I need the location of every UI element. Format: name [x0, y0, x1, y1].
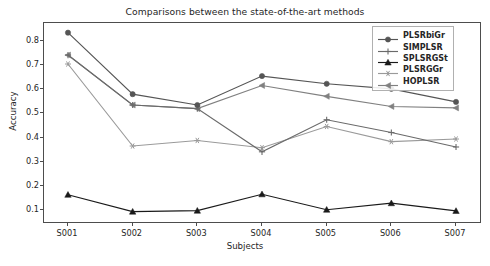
- legend-marker-icon: [377, 64, 399, 75]
- legend-label: PLSRGGr: [403, 65, 443, 74]
- x-axis-label: Subjects: [0, 241, 490, 251]
- y-tick-label: 0.4: [11, 132, 39, 142]
- data-point: [259, 191, 265, 197]
- x-tick-mark: [67, 223, 68, 226]
- data-point: [195, 102, 200, 107]
- legend-label: HOPLSR: [403, 77, 439, 86]
- data-point: [259, 82, 265, 88]
- x-tick-mark: [132, 223, 133, 226]
- data-point: [453, 136, 459, 141]
- y-tick-label: 0.1: [11, 204, 39, 214]
- data-point: [259, 149, 265, 155]
- x-tick-label: S005: [303, 228, 349, 238]
- y-tick-label: 0.8: [11, 35, 39, 45]
- data-point: [453, 144, 459, 150]
- legend-marker-icon: [377, 76, 399, 87]
- data-point: [259, 73, 264, 78]
- x-tick-label: S007: [432, 228, 478, 238]
- x-tick-mark: [326, 223, 327, 226]
- chart-legend: PLSRbiGrSIMPLSRSPLSRGStPLSRGGrHOPLSR: [372, 26, 454, 91]
- data-point: [324, 117, 330, 123]
- data-point: [324, 124, 330, 129]
- data-point: [453, 105, 459, 111]
- chart-figure: Comparisons between the state-of-the-art…: [0, 0, 490, 266]
- x-tick-label: S006: [367, 228, 413, 238]
- data-point: [453, 99, 458, 104]
- y-tick-label: 0.5: [11, 107, 39, 117]
- legend-item-splsrgst[interactable]: SPLSRGSt: [377, 53, 448, 64]
- x-tick-mark: [261, 223, 262, 226]
- legend-label: SIMPLSR: [403, 43, 443, 52]
- data-point: [324, 93, 330, 99]
- x-tick-mark: [455, 223, 456, 226]
- y-tick-label: 0.7: [11, 59, 39, 69]
- x-tick-label: S001: [44, 228, 90, 238]
- legend-item-simplsr[interactable]: SIMPLSR: [377, 41, 448, 52]
- data-point: [388, 129, 394, 135]
- legend-item-hoplsr[interactable]: HOPLSR: [377, 76, 448, 87]
- legend-label: PLSRbiGr: [403, 31, 445, 40]
- x-tick-mark: [196, 223, 197, 226]
- y-tick-label: 0.3: [11, 156, 39, 166]
- series-splsrgst: [65, 191, 459, 214]
- legend-marker-icon: [377, 42, 399, 53]
- chart-title: Comparisons between the state-of-the-art…: [0, 6, 490, 17]
- data-point: [65, 30, 70, 35]
- y-tick-label: 0.2: [11, 180, 39, 190]
- legend-item-plsrggr[interactable]: PLSRGGr: [377, 64, 448, 75]
- data-point: [130, 92, 135, 97]
- legend-label: SPLSRGSt: [403, 54, 448, 63]
- legend-marker-icon: [377, 53, 399, 64]
- data-point: [194, 138, 200, 143]
- data-point: [65, 192, 71, 198]
- data-point: [324, 81, 329, 86]
- legend-item-plsrbigr[interactable]: PLSRbiGr: [377, 30, 448, 41]
- x-tick-label: S004: [238, 228, 284, 238]
- data-point: [388, 139, 394, 144]
- x-tick-mark: [390, 223, 391, 226]
- y-tick-label: 0.6: [11, 83, 39, 93]
- x-tick-label: S003: [173, 228, 219, 238]
- x-tick-label: S002: [109, 228, 155, 238]
- data-point: [388, 103, 394, 109]
- legend-marker-icon: [377, 30, 399, 41]
